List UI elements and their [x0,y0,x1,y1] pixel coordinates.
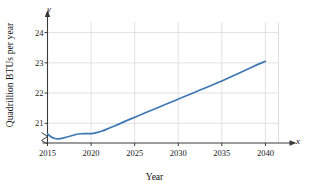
y-tick-label: 23 [27,58,44,68]
x-tick-label: 2040 [257,148,274,158]
data-series-group [48,61,266,139]
x-variable-symbol: x [296,136,300,146]
x-tick-label: 2035 [213,148,230,158]
y-axis-title-text: Quadrillion BTUs per year [5,23,15,128]
y-tick-label: 21 [27,118,44,128]
y-axis-title: Quadrillion BTUs per year [2,0,18,150]
y-tick-label: 22 [27,88,44,98]
x-axis-title: Year [0,172,309,182]
x-tick-label: 2015 [39,148,56,158]
axes-group [43,10,297,146]
y-variable-symbol: y [47,4,51,14]
axis-break-icon [42,133,48,145]
y-tick-label: 24 [27,28,44,38]
x-tick-label: 2030 [170,148,187,158]
x-tick-label: 2025 [126,148,143,158]
x-tick-label: 2020 [83,148,100,158]
chart-figure: 21222324 201520202025203020352040 Quadri… [0,0,309,185]
tick-marks-group [45,33,266,146]
gridlines-group [48,22,279,143]
